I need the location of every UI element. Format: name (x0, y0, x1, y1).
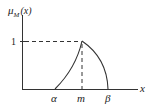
x-axis-label: x (139, 82, 145, 94)
left-membership-curve (55, 41, 82, 89)
y-axis-label: μM(x) (7, 4, 32, 19)
membership-function-diagram: μM(x) 1 x α m β (0, 0, 151, 110)
y-tick-label-1: 1 (11, 36, 16, 47)
x-tick-label-beta: β (104, 92, 111, 104)
right-membership-curve (82, 41, 108, 89)
x-tick-label-alpha: α (51, 92, 57, 104)
x-tick-label-m: m (77, 92, 85, 104)
